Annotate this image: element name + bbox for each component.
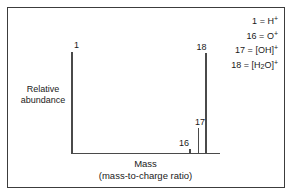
legend-row-4: 18 = [H2O]+ (231, 57, 278, 74)
legend-species-3: [OH] (255, 45, 274, 55)
peak-bar-17 (198, 128, 200, 153)
legend-charge-2: + (274, 30, 278, 37)
legend-species-2: O (267, 31, 274, 41)
peak-bar-18 (205, 53, 207, 153)
peak-label-16: 16 (179, 138, 189, 148)
peak-bar-16 (189, 149, 191, 153)
legend-eq-4: = (244, 60, 249, 70)
legend-eq-3: = (248, 45, 253, 55)
peak-label-1: 1 (74, 40, 79, 50)
legend-mass-3: 17 (235, 45, 245, 55)
y-axis-label-line1: Relative (17, 84, 69, 95)
legend-mass-1: 1 (252, 16, 257, 26)
legend-row-3: 17 = [OH]+ (231, 42, 278, 57)
y-axis-label: Relative abundance (17, 84, 69, 106)
legend-mass-4: 18 (231, 60, 241, 70)
legend-species-tail-4: O] (264, 60, 274, 70)
legend-eq-2: = (259, 31, 264, 41)
legend-mass-2: 16 (247, 31, 257, 41)
legend-row-1: 1 = H+ (231, 13, 278, 28)
legend-charge-4: + (274, 59, 278, 66)
legend-charge-3: + (274, 44, 278, 51)
y-axis-label-line2: abundance (17, 95, 69, 106)
peak-label-18: 18 (197, 42, 207, 52)
x-axis-line (71, 153, 220, 154)
x-axis-sublabel: (mass-to-charge ratio) (51, 170, 240, 182)
x-axis-label: Mass (71, 158, 220, 170)
legend: 1 = H+ 16 = O+ 17 = [OH]+ 18 = [H2O]+ (231, 13, 278, 73)
peak-bar-1 (72, 52, 74, 153)
mass-spectrum-figure: 1 16 17 18 Relative abundance Mass (mass… (0, 0, 292, 195)
legend-row-2: 16 = O+ (231, 28, 278, 43)
legend-eq-1: = (260, 16, 265, 26)
legend-charge-1: + (274, 15, 278, 22)
plot-area: 1 16 17 18 Relative abundance Mass (mass… (0, 0, 292, 195)
peak-label-17: 17 (195, 117, 205, 127)
